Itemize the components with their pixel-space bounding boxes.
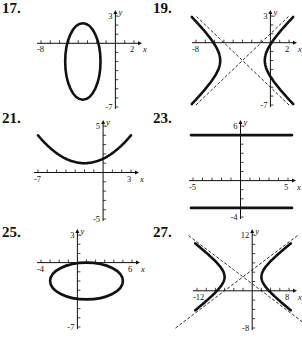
x-arrow-icon: [293, 289, 297, 293]
ellipse-curve: [65, 23, 100, 99]
y-min-label: -7: [260, 100, 267, 110]
y-axis-label: y: [117, 7, 122, 17]
y-min-label: -4: [230, 212, 238, 222]
asymptote-line: [196, 16, 289, 105]
y-max-label: 3: [263, 11, 267, 21]
x-axis-label: x: [142, 44, 147, 54]
x-axis-label: x: [297, 292, 302, 302]
x-arrow-icon: [135, 171, 139, 175]
y-max-label: 12: [241, 230, 250, 240]
parabola-curve: [38, 135, 131, 163]
y-max-label: 5: [96, 121, 100, 131]
plot-21: -735-5xy: [0, 112, 151, 226]
x-min-label: -4: [37, 264, 45, 274]
x-min-label: -7: [34, 174, 41, 184]
hyperbola-branch: [192, 17, 220, 104]
x-max-label: 5: [284, 182, 288, 192]
y-arrow-icon: [113, 10, 117, 14]
plot-25: -463-7xy: [0, 226, 151, 344]
y-arrow-icon: [250, 229, 254, 233]
y-arrow-icon: [239, 120, 243, 124]
x-arrow-icon: [138, 41, 142, 45]
y-axis-label: y: [105, 117, 110, 127]
plot-17: -823-7xy: [0, 0, 151, 112]
x-min-label: -5: [189, 182, 196, 192]
y-max-label: 6: [233, 121, 237, 131]
asymptote-line: [176, 235, 299, 328]
hyperbola-branch: [265, 17, 293, 104]
x-axis-label: x: [140, 264, 145, 274]
x-max-label: 8: [285, 292, 289, 302]
x-min-label: -8: [192, 44, 199, 54]
x-axis-label: x: [296, 182, 301, 192]
x-axis-label: x: [297, 44, 302, 54]
graph-21: 21. -735-5xy: [0, 112, 151, 226]
y-axis-label: y: [79, 226, 84, 236]
y-axis-label: y: [272, 7, 277, 17]
y-min-label: -7: [105, 102, 112, 112]
y-min-label: -7: [67, 322, 74, 332]
x-axis-label: x: [139, 174, 144, 184]
x-arrow-icon: [136, 261, 140, 265]
x-arrow-icon: [293, 41, 297, 45]
graph-23: 23. -556-4xy: [151, 112, 302, 226]
asymptote-line: [196, 16, 289, 105]
y-axis-label: y: [243, 117, 248, 127]
x-max-label: 3: [127, 174, 131, 184]
y-max-label: 3: [108, 11, 112, 21]
y-min-label: -8: [242, 323, 249, 333]
ellipse-curve: [50, 263, 123, 300]
y-axis-label: y: [254, 226, 259, 236]
x-min-label: -12: [193, 292, 204, 302]
y-arrow-icon: [101, 120, 105, 124]
graph-19: 19. -823-7xy: [151, 0, 302, 112]
y-min-label: -5: [93, 214, 100, 224]
x-max-label: 2: [285, 44, 289, 54]
graph-27: 27. -12812-8xy: [151, 226, 302, 344]
y-arrow-icon: [268, 10, 272, 14]
y-max-label: 3: [70, 230, 74, 240]
plot-23: -556-4xy: [151, 112, 302, 226]
x-min-label: -8: [37, 44, 44, 54]
x-arrow-icon: [292, 179, 296, 183]
x-max-label: 6: [128, 264, 132, 274]
x-max-label: 2: [130, 44, 134, 54]
plot-27: -12812-8xy: [151, 226, 302, 344]
graph-17: 17. -823-7xy: [0, 0, 151, 112]
y-arrow-icon: [75, 229, 79, 233]
plot-19: -823-7xy: [151, 0, 302, 112]
graph-25: 25. -463-7xy: [0, 226, 151, 344]
